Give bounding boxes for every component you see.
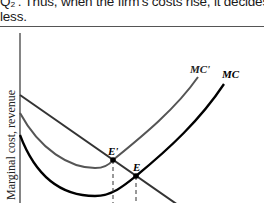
e-prime-point xyxy=(110,157,116,163)
mc-curve xyxy=(20,84,224,196)
mc-prime-label: MC' xyxy=(189,63,210,75)
e-label: E xyxy=(132,161,140,173)
chart: MC' MC E' E xyxy=(0,0,264,203)
y-axis-label: Marginal cost, revenue xyxy=(4,90,19,200)
mc-label: MC xyxy=(221,68,240,80)
e-point xyxy=(133,173,139,179)
mr-line xyxy=(20,95,178,203)
e-prime-label: E' xyxy=(107,145,118,157)
